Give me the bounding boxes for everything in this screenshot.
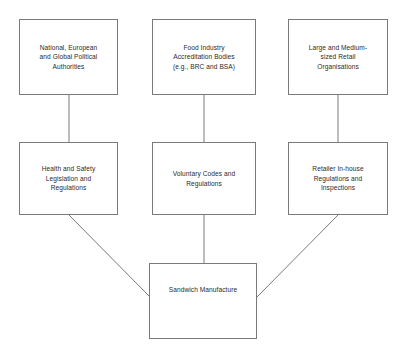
node-health-safety-legislation-label: Health and Safety Legislation and Regula… <box>37 164 101 193</box>
edge-retailer-inhouse-to-sandwich-manufacture <box>257 215 338 297</box>
node-voluntary-codes-label: Voluntary Codes and Regulations <box>168 169 240 188</box>
edge-health-safety-to-sandwich-manufacture <box>69 215 150 297</box>
node-retailer-inhouse: Retailer In-house Regulations and Inspec… <box>288 142 388 215</box>
node-retail-organisations-label: Large and Medium- sized Retail Organisat… <box>304 43 372 72</box>
node-retailer-inhouse-label: Retailer In-house Regulations and Inspec… <box>307 164 368 193</box>
node-voluntary-codes: Voluntary Codes and Regulations <box>152 142 256 215</box>
node-political-authorities: National, European and Global Political … <box>19 19 118 95</box>
node-accreditation-bodies: Food Industry Accreditation Bodies (e.g.… <box>152 19 256 95</box>
node-accreditation-bodies-label: Food Industry Accreditation Bodies (e.g.… <box>168 43 240 72</box>
node-political-authorities-label: National, European and Global Political … <box>35 43 103 72</box>
node-sandwich-manufacture: Sandwich Manufacture <box>149 263 257 339</box>
diagram-canvas: National, European and Global Political … <box>0 0 410 355</box>
node-sandwich-manufacture-label: Sandwich Manufacture <box>164 285 242 295</box>
node-retail-organisations: Large and Medium- sized Retail Organisat… <box>288 19 388 95</box>
node-health-safety-legislation: Health and Safety Legislation and Regula… <box>19 142 118 215</box>
